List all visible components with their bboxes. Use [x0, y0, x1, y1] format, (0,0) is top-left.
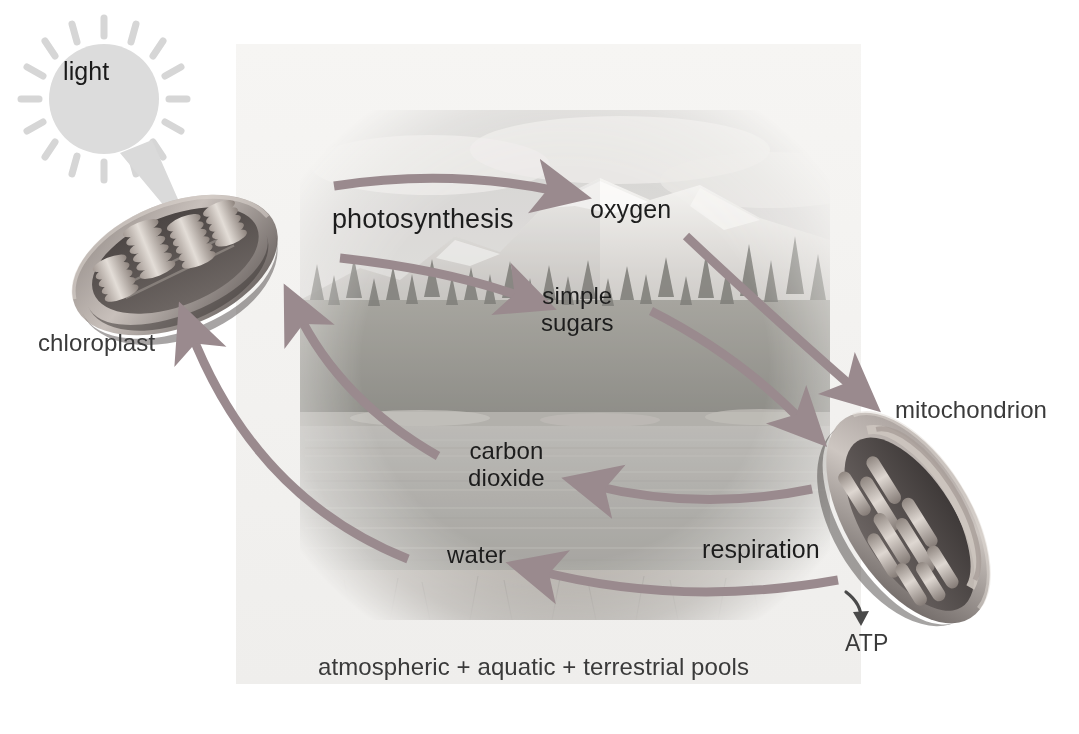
caption-pools: atmospheric + aquatic + terrestrial pool…: [318, 654, 749, 681]
label-carbon-dioxide-line2: dioxide: [468, 465, 545, 492]
flow-arrows-layer: [0, 0, 1079, 734]
arrow-respiration-to-water: [535, 570, 838, 592]
label-light: light: [63, 57, 109, 85]
arrow-mitochondrion-to-atp: [846, 592, 869, 626]
label-photosynthesis: photosynthesis: [332, 204, 514, 234]
label-atp: ATP: [845, 631, 888, 657]
label-respiration: respiration: [702, 535, 820, 563]
arrow-respiration-to-carbon-dioxide: [591, 485, 812, 500]
label-water: water: [447, 542, 506, 569]
arrow-photosynthesis-to-oxygen: [334, 178, 562, 192]
arrow-carbon-dioxide-to-chloroplast: [297, 311, 438, 456]
label-oxygen: oxygen: [590, 195, 671, 223]
label-mitochondrion: mitochondrion: [895, 397, 1047, 424]
arrow-water-to-chloroplast: [190, 330, 408, 559]
label-simple-sugars-line2: sugars: [541, 310, 614, 337]
label-carbon-dioxide-line1: carbon: [468, 438, 545, 465]
label-carbon-dioxide: carbon dioxide: [468, 438, 545, 492]
label-simple-sugars-line1: simple: [541, 283, 614, 310]
diagram-canvas: light chloroplast photosynthesis oxygen …: [0, 0, 1079, 734]
label-chloroplast: chloroplast: [38, 330, 155, 357]
label-simple-sugars: simple sugars: [541, 283, 614, 337]
arrow-photosynthesis-to-simple-sugars: [340, 258, 528, 299]
arrow-oxygen-to-mitochondrion: [686, 236, 858, 392]
